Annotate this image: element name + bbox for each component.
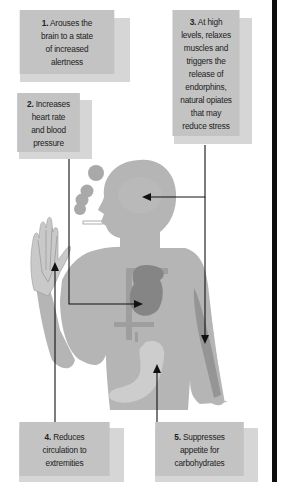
callout-3-line: levels, relaxes <box>181 28 231 41</box>
callout-4: 4. Reduces circulation to extremities <box>12 422 124 482</box>
callout-1-line: brain to a state <box>41 29 93 42</box>
callout-2-line: and blood <box>31 123 66 136</box>
callout-4-number: 4. <box>44 431 51 442</box>
callout-1: 1. Arouses the brain to a state of incre… <box>12 10 130 82</box>
nicotine-effects-diagram: 1. Arouses the brain to a state of incre… <box>0 0 281 488</box>
callout-1-line: Arouses the <box>50 17 92 28</box>
callout-3-line: endorphins, <box>185 80 226 93</box>
callout-2-line: pressure <box>33 136 64 149</box>
callout-3: 3. At high levels, relaxes muscles and t… <box>167 10 252 144</box>
brain-icon <box>118 177 162 213</box>
callout-3-number: 3. <box>190 16 197 27</box>
callout-3-line: natural opiates <box>180 93 232 106</box>
callout-1-line: alertness <box>51 55 83 68</box>
callout-5-line: appetite for <box>180 443 219 456</box>
callout-5-line: Suppresses <box>183 431 225 442</box>
cigarette-icon <box>83 221 103 224</box>
callout-4-line: circulation to <box>43 443 87 456</box>
callout-5: 5. Suppresses appetite for carbohydrates <box>148 422 258 482</box>
callout-5-line: carbohydrates <box>174 456 224 469</box>
callout-2-line: Increases <box>36 98 70 109</box>
callout-1-line: of increased <box>46 42 89 55</box>
page-divider <box>272 0 277 482</box>
callout-3-line: muscles and <box>184 41 228 54</box>
callout-3-line: At high <box>198 16 222 27</box>
callout-2: 2. Increases heart rate and blood pressu… <box>12 93 92 159</box>
callout-4-line: Reduces <box>53 431 84 442</box>
callout-4-line: extremities <box>45 456 83 469</box>
callout-2-number: 2. <box>27 98 34 109</box>
callout-2-line: heart rate <box>32 110 66 123</box>
callout-3-line: release of <box>189 67 224 80</box>
callout-5-number: 5. <box>174 431 181 442</box>
callout-3-line: that may <box>191 106 221 119</box>
callout-3-line: triggers the <box>186 54 225 67</box>
heart-icon <box>130 265 164 316</box>
callout-3-line: reduce stress <box>182 119 229 132</box>
callout-1-number: 1. <box>42 17 49 28</box>
